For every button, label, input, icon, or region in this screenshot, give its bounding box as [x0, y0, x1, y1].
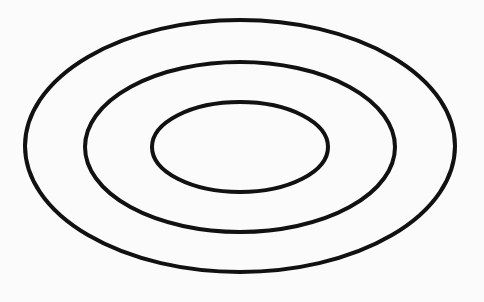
inner-ellipse — [152, 102, 328, 192]
middle-ellipse — [85, 62, 395, 232]
concentric-ellipses-diagram — [0, 0, 484, 302]
outer-ellipse — [25, 20, 455, 272]
diagram-canvas — [0, 0, 484, 302]
